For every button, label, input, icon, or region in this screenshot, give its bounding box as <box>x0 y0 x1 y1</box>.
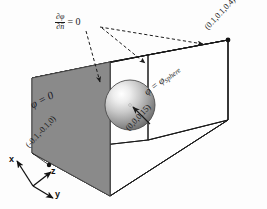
sphere <box>105 80 155 130</box>
neumann-arrow-right <box>100 27 203 44</box>
axis-y-arrow <box>33 186 53 198</box>
neumann-arrow-down-right <box>102 28 145 63</box>
axis-z-arrow <box>33 172 51 186</box>
dirichlet-face <box>32 62 110 196</box>
diagram-vector-layer <box>0 0 267 209</box>
diagram-canvas: ∂φ ∂n̂ = 0 φ = 0 φ = φsphere (0.1,0.1,0.… <box>0 0 267 209</box>
vertex-dot-max <box>226 38 231 43</box>
sphere-center-dot <box>129 104 132 107</box>
axis-x-arrow <box>17 161 33 186</box>
